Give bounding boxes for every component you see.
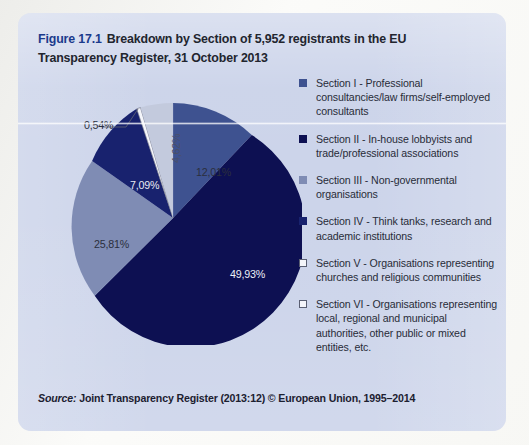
chart-legend: Section I - Professional consultancies/l… <box>299 76 499 367</box>
pie-chart-svg <box>52 95 302 345</box>
legend-item-section-i[interactable]: Section I - Professional consultancies/l… <box>299 76 499 119</box>
legend-item-section-vi[interactable]: Section VI - Organisations representing … <box>299 297 499 354</box>
legend-item-section-iv[interactable]: Section IV - Think tanks, research and a… <box>299 214 499 242</box>
slice-label-section-i: 12,01% <box>196 166 231 178</box>
legend-label-section-iii: Section III - Non-governmental organisat… <box>316 174 457 200</box>
figure-source: Source: Joint Transparency Register (201… <box>38 392 415 404</box>
legend-swatch-section-ii <box>299 135 307 143</box>
slice-label-section-v: 0,54% <box>84 119 113 131</box>
legend-swatch-section-iii <box>299 176 307 184</box>
source-text: Joint Transparency Register (2013:12) © … <box>79 392 415 404</box>
legend-item-section-ii[interactable]: Section II - In-house lobbyists and trad… <box>299 132 499 160</box>
legend-item-section-iii[interactable]: Section III - Non-governmental organisat… <box>299 173 499 201</box>
slice-label-section-ii: 49,93% <box>230 268 265 280</box>
legend-swatch-section-iv <box>299 217 307 225</box>
slice-label-section-vi: 4,62% <box>170 134 182 163</box>
legend-label-section-i: Section I - Professional consultancies/l… <box>316 77 490 117</box>
legend-label-section-iv: Section IV - Think tanks, research and a… <box>316 215 492 241</box>
legend-label-section-ii: Section II - In-house lobbyists and trad… <box>316 133 472 159</box>
legend-label-section-vi: Section VI - Organisations representing … <box>316 298 497 353</box>
legend-swatch-section-i <box>299 79 307 87</box>
source-keyword: Source: <box>38 392 76 404</box>
legend-swatch-section-vi <box>299 300 307 308</box>
figure-panel: Figure 17.1Breakdown by Section of 5,952… <box>18 13 506 431</box>
legend-swatch-section-v <box>299 259 307 267</box>
legend-item-section-v[interactable]: Section V - Organisations representing c… <box>299 256 499 284</box>
legend-label-section-v: Section V - Organisations representing c… <box>316 257 494 283</box>
slice-label-section-iii: 25,81% <box>94 238 129 250</box>
pie-chart: 12,01% 49,93% 25,81% 7,09% 4,62% 0,54% <box>18 13 318 431</box>
slice-label-section-iv: 7,09% <box>130 179 159 191</box>
